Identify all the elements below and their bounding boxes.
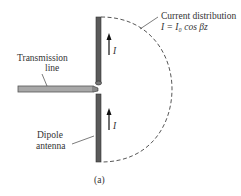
upper-current-arrow: [107, 33, 112, 55]
dipole-label-line1: Dipole: [37, 130, 63, 140]
lower-current-arrow: [107, 108, 112, 130]
current-distribution-leader: [140, 17, 158, 29]
transmission-label-line2: line: [45, 63, 59, 73]
current-distribution-label: Current distribution: [161, 11, 236, 21]
dipole-antenna-leader: [72, 136, 94, 144]
lower-antenna-arm: [96, 94, 101, 162]
upper-arm-terminal: [96, 81, 102, 85]
upper-current-symbol: I: [113, 46, 116, 56]
dipole-label-line2: antenna: [36, 141, 66, 151]
transmission-line-leader: [42, 74, 47, 86]
lower-current-symbol: I: [113, 121, 116, 131]
upper-antenna-arm: [96, 17, 101, 83]
transmission-label-line1: Transmission: [17, 53, 68, 63]
figure-caption: (a): [94, 175, 105, 185]
transmission-line: [18, 86, 93, 92]
current-equation: I = I₀ cos βz: [161, 22, 208, 32]
current-distribution-curve: [101, 17, 172, 162]
feed-gap: [93, 86, 98, 92]
